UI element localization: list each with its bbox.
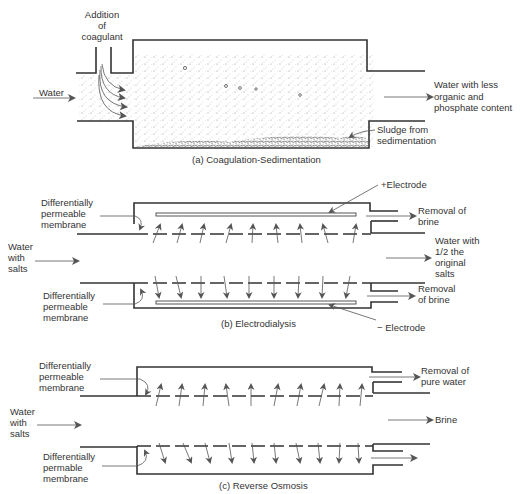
label-brine-top-2: brine (418, 216, 439, 227)
caption-b: (b) Electrodialysis (221, 318, 296, 329)
label-out-2: organic and (434, 91, 484, 102)
label-membrane-bottom-1: Differentially (43, 290, 95, 301)
label-membrane-top-2: permeable (39, 371, 84, 382)
caption-c: (c) Reverse Osmosis (219, 480, 308, 491)
label-membrane-top-3: membrane (39, 382, 84, 393)
panel-coagulation-sedimentation: Addition of coagulant Water Water with l… (33, 9, 513, 165)
label-water-in-1: Water (10, 406, 35, 417)
label-sludge-2: sedimentation (377, 135, 436, 146)
label-water-in: Water (39, 87, 64, 98)
label-out-3: original (435, 257, 466, 268)
label-negative-electrode: − Electrode (377, 322, 425, 333)
positive-electrode (156, 213, 356, 216)
label-membrane-top-3: membrane (41, 219, 86, 230)
label-positive-electrode: +Electrode (381, 179, 427, 190)
label-membrane-bottom-1: Differentially (43, 451, 95, 462)
label-brine-top-1: Removal of (418, 205, 466, 216)
label-sludge-1: Sludge from (377, 124, 428, 135)
label-water-in-2: with (9, 417, 27, 428)
label-water-in-3: salts (8, 263, 28, 274)
label-out-1: Water with less (434, 79, 498, 90)
inlet-top-wall (76, 47, 96, 73)
label-membrane-bottom-2: permable (43, 462, 83, 473)
label-membrane-top-2: permeable (41, 208, 86, 219)
water-treatment-diagram: Addition of coagulant Water Water with l… (0, 0, 522, 494)
caption-a: (a) Coagulation-Sedimentation (192, 154, 321, 165)
panel-reverse-osmosis: Differentially permeable membrane Differ… (9, 360, 469, 491)
label-brine-bottom-1: Removal (418, 283, 456, 294)
label-addition: Addition (85, 9, 119, 20)
label-membrane-top-1: Differentially (39, 360, 91, 371)
tank-particles (134, 55, 374, 147)
label-of: of (98, 20, 106, 31)
label-water-in-1: Water (8, 241, 33, 252)
label-out-4: salts (435, 268, 455, 279)
label-brine-bottom-2: of brine (418, 294, 450, 305)
label-membrane-bottom-2: permeable (43, 301, 88, 312)
label-coagulant: coagulant (81, 31, 123, 42)
label-pure-water-1: Removal of (421, 365, 469, 376)
label-out-2: 1/2 the (435, 246, 464, 257)
label-membrane-bottom-3: membrane (43, 473, 88, 484)
label-water-in-2: with (7, 252, 25, 263)
label-water-in-3: salts (10, 428, 30, 439)
label-out-3: phosphate content (434, 102, 513, 113)
label-brine: Brine (435, 414, 457, 425)
label-out-1: Water with (435, 235, 480, 246)
label-membrane-bottom-3: membrane (43, 312, 88, 323)
panel-electrodialysis: +Electrode − Electrode Differentially pe… (7, 179, 480, 333)
label-pure-water-2: pure water (421, 376, 466, 387)
label-membrane-top-1: Differentially (41, 197, 93, 208)
ro-bottom-outer-wall (137, 446, 403, 474)
ed-ion-arrows-down (155, 276, 350, 297)
negative-electrode (156, 301, 356, 304)
inlet-particles (78, 75, 134, 122)
ro-top-outer-wall (137, 367, 402, 396)
